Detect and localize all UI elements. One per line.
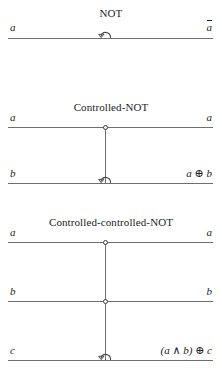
ccnot-control-circle-a (103, 240, 108, 245)
cnot-output-label-a-xor-b: a ⊕ b (186, 167, 212, 180)
not-gate-title: NOT (0, 7, 222, 19)
gate-diagram: NOT a a Controlled-NOT a a b a ⊕ b (0, 0, 222, 377)
ccnot-input-label-c: c (10, 344, 15, 356)
ccnot-output-label-b: b (207, 285, 213, 297)
not-output-label-a-bar: a (207, 21, 213, 33)
cnot-gate-title: Controlled-NOT (0, 101, 222, 113)
ccnot-gate-title: Controlled-controlled-NOT (0, 216, 222, 228)
cnot-input-label-a: a (10, 111, 16, 123)
cnot-input-label-b: b (10, 167, 16, 179)
ccnot-input-label-b: b (10, 285, 16, 297)
ccnot-not-hook-arrow-icon (98, 347, 114, 361)
not-output-base: a (207, 21, 213, 33)
not-hook-arrow-icon (98, 25, 114, 39)
cnot-wire-a (8, 127, 213, 128)
ccnot-output-label-a: a (207, 226, 213, 238)
ccnot-control-circle-b (103, 299, 108, 304)
cnot-control-circle (103, 125, 108, 130)
ccnot-wire-a (8, 242, 213, 243)
ccnot-input-label-a: a (10, 226, 16, 238)
cnot-not-hook-arrow-icon (98, 170, 114, 184)
not-input-label-a: a (10, 21, 16, 33)
ccnot-output-label-and-xor-c: (a ∧ b) ⊕ c (161, 344, 212, 357)
ccnot-wire-b (8, 301, 213, 302)
cnot-output-label-a: a (207, 111, 213, 123)
